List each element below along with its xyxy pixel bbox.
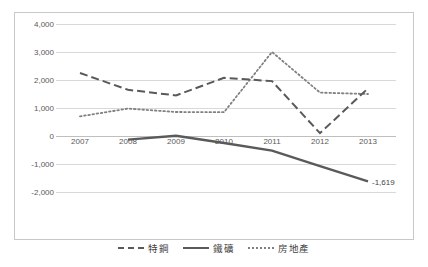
y-tick-label: -2,000: [14, 188, 54, 197]
chart-container: 4,000 3,000 2,000 1,000 0 -1,000 -2,000 …: [0, 0, 428, 267]
y-tick-label: 1,000: [14, 104, 54, 113]
legend-item-real-estate[interactable]: 房地產: [248, 241, 310, 255]
x-tick-label: 2010: [215, 137, 233, 146]
legend-swatch-dashed-icon: [118, 247, 144, 249]
legend-swatch-dotted-icon: [248, 247, 274, 249]
legend-label: 房地產: [278, 241, 310, 255]
x-tick-label: 2011: [263, 137, 280, 146]
y-tick-label: 3,000: [14, 48, 54, 57]
legend-item-iron-ore[interactable]: 鐵礦: [183, 241, 234, 255]
x-tick-label: 2013: [359, 137, 377, 146]
y-tick-label: 4,000: [14, 20, 54, 29]
x-tick-label: 2012: [311, 137, 329, 146]
series-line-special-steel: [80, 73, 368, 133]
y-axis-labels: 4,000 3,000 2,000 1,000 0 -1,000 -2,000: [14, 24, 54, 192]
chart-legend: 特鋼 鐵礦 房地產: [0, 241, 428, 255]
legend-label: 鐵礦: [213, 241, 234, 255]
legend-swatch-solid-icon: [183, 247, 209, 249]
series-line-real-estate: [80, 52, 368, 116]
series-lines: [56, 24, 396, 192]
legend-label: 特鋼: [148, 241, 169, 255]
y-tick-label: 0: [14, 132, 54, 141]
x-tick-label: 2009: [167, 137, 185, 146]
gridline: [56, 192, 396, 193]
x-tick-label: 2008: [119, 137, 137, 146]
data-label-annotation: -1,619: [372, 178, 395, 187]
y-tick-label: 2,000: [14, 76, 54, 85]
x-tick-label: 2007: [71, 137, 89, 146]
legend-item-special-steel[interactable]: 特鋼: [118, 241, 169, 255]
y-tick-label: -1,000: [14, 160, 54, 169]
x-axis-labels: 2007 2008 2009 2010 2011 2012 2013: [56, 137, 396, 149]
